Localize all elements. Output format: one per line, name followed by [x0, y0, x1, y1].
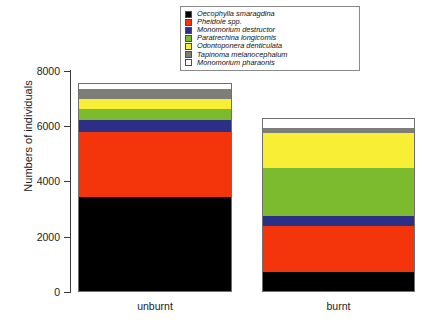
- bar-segment: [262, 168, 415, 216]
- bar-segment: [78, 99, 232, 109]
- stacked-bar-chart: Numbers of individuals 02000400060008000…: [0, 0, 424, 326]
- bar-segment: [262, 118, 415, 128]
- y-tick-label-2000: 2000: [14, 232, 60, 242]
- legend-swatch-icon: [185, 27, 192, 34]
- bar-segment: [262, 272, 415, 292]
- bar-burnt[interactable]: [262, 118, 415, 292]
- bar-unburnt[interactable]: [78, 83, 232, 292]
- bar-segment: [262, 226, 415, 272]
- legend-swatch-icon: [185, 35, 192, 42]
- legend: Oecophylla smaragdinaPheidole spp.Monomo…: [180, 6, 360, 71]
- x-axis-label-burnt: burnt: [262, 300, 415, 312]
- legend-swatch-icon: [185, 59, 192, 66]
- legend-item[interactable]: Monomorium pharaonis: [185, 59, 354, 67]
- y-tick-label-8000: 8000: [14, 66, 60, 76]
- bar-segment: [78, 109, 232, 120]
- bar-segment: [262, 216, 415, 226]
- bar-segment: [78, 197, 232, 292]
- bar-segment: [78, 132, 232, 197]
- y-tick-label-6000: 6000: [14, 121, 60, 131]
- x-axis-label-unburnt: unburnt: [78, 300, 232, 312]
- y-tick-label-4000: 4000: [14, 176, 60, 186]
- bar-segment: [262, 133, 415, 168]
- y-tick-8000: [64, 71, 70, 72]
- y-axis-line: [70, 70, 71, 293]
- legend-swatch-icon: [185, 51, 192, 58]
- bar-segment: [262, 128, 415, 133]
- y-tick-4000: [64, 181, 70, 182]
- legend-swatch-icon: [185, 11, 192, 18]
- legend-label: Monomorium pharaonis: [197, 59, 275, 67]
- bar-segment: [78, 83, 232, 89]
- y-tick-6000: [64, 126, 70, 127]
- y-axis-title: Numbers of individuals: [22, 56, 34, 216]
- y-tick-2000: [64, 237, 70, 238]
- y-tick-0: [64, 292, 70, 293]
- y-tick-label-0: 0: [14, 287, 60, 297]
- legend-swatch-icon: [185, 43, 192, 50]
- legend-swatch-icon: [185, 19, 192, 26]
- bar-segment: [78, 120, 232, 132]
- bar-segment: [78, 89, 232, 99]
